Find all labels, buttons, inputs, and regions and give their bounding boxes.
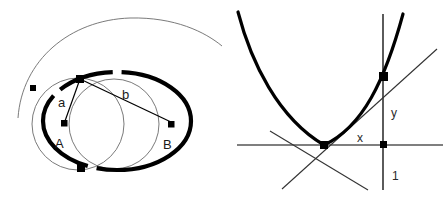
figure-root: a b A B x y 1 bbox=[0, 0, 447, 217]
circle-marker-square bbox=[30, 85, 36, 91]
vertex-point bbox=[320, 141, 328, 149]
label-unit: 1 bbox=[392, 169, 399, 183]
secant-line bbox=[270, 131, 368, 190]
thin-circle-middle bbox=[69, 79, 159, 169]
label-y-value: y bbox=[391, 106, 397, 120]
label-x-axis: x bbox=[357, 131, 363, 145]
top-intersection-point bbox=[76, 75, 84, 83]
focus-a-marker bbox=[61, 120, 68, 127]
label-focus-a: A bbox=[55, 136, 64, 151]
curve-axis-intersection-point bbox=[379, 72, 388, 81]
left-panel-ellipse-construction: a b A B bbox=[0, 0, 223, 217]
parabola-curve bbox=[238, 12, 403, 145]
thin-circle-left bbox=[32, 78, 124, 170]
label-focus-b: B bbox=[163, 137, 172, 152]
label-radius-b: b bbox=[122, 87, 129, 102]
bottom-intersection-point bbox=[77, 164, 85, 172]
tangent-line bbox=[282, 49, 437, 189]
focus-b-marker bbox=[168, 121, 175, 128]
label-radius-a: a bbox=[58, 95, 66, 110]
parabola-construction-svg: x y 1 bbox=[223, 0, 447, 217]
ellipse-construction-svg: a b A B bbox=[0, 0, 223, 217]
right-panel-parabola-construction: x y 1 bbox=[223, 0, 447, 217]
unit-point bbox=[380, 141, 387, 148]
